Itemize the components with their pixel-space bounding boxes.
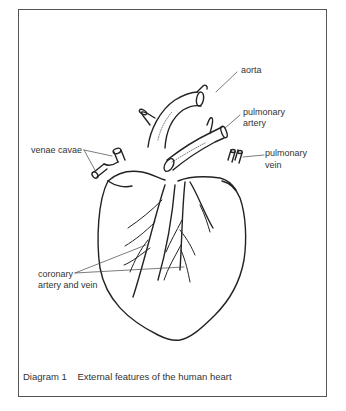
heart-outline — [98, 181, 246, 340]
label-coronary-line1: coronary — [38, 269, 73, 280]
figure-caption: Diagram 1 External features of the human… — [23, 371, 232, 382]
heart-illustration — [0, 0, 346, 411]
label-aorta: aorta — [241, 65, 262, 76]
label-pulmonary-artery-line2: artery — [243, 118, 266, 129]
pulmonary-vein-leader — [243, 155, 264, 157]
caption-number: Diagram 1 — [23, 371, 67, 382]
pulmonary-artery-leader — [225, 115, 240, 128]
venae-cavae-leader-2 — [84, 150, 96, 172]
label-pulmonary-artery-line1: pulmonary — [243, 107, 285, 118]
pulmonary-artery-path — [167, 127, 222, 160]
aorta-leader — [216, 72, 237, 92]
label-venae-cavae: venae cavae — [31, 145, 82, 156]
label-coronary-line2: artery and vein — [38, 280, 98, 291]
caption-text: External features of the human heart — [77, 371, 231, 382]
label-pulmonary-vein-line1: pulmonary — [265, 148, 307, 159]
venae-cavae-leader-1 — [84, 150, 112, 156]
label-pulmonary-vein-line2: vein — [265, 160, 282, 171]
